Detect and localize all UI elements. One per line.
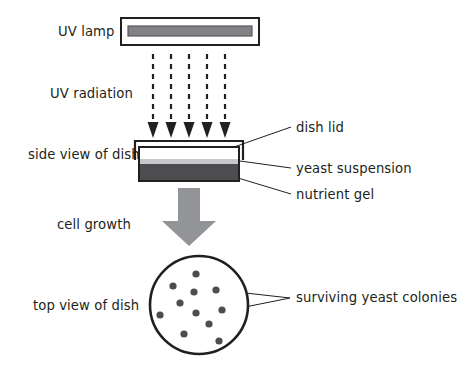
label-uv-lamp: UV lamp (58, 24, 115, 39)
petri-dish-top-view-group (150, 256, 248, 354)
yeast-colony (205, 320, 212, 327)
yeast-colony (156, 311, 163, 318)
label-nutrient-gel: nutrient gel (296, 187, 374, 202)
yeast-colony (190, 288, 197, 295)
uv-ray-arrowhead (166, 122, 177, 138)
label-top-view-of-dish: top view of dish (33, 298, 139, 313)
yeast-colony (215, 337, 222, 344)
uv-radiation-rays-group (148, 54, 231, 138)
nutrient-gel-layer (140, 164, 238, 180)
yeast-colony (176, 299, 183, 306)
label-surviving-yeast-colonies: surviving yeast colonies (296, 290, 457, 305)
label-dish-lid: dish lid (296, 120, 344, 135)
leader-line-dish-lid (234, 127, 291, 147)
uv-ray-arrowhead (184, 122, 195, 138)
text-labels-group: UV lamp UV radiation side view of dish c… (28, 24, 457, 313)
uv-ray-arrowhead (148, 122, 159, 138)
yeast-colony (169, 282, 176, 289)
uv-ray-4 (202, 54, 213, 138)
yeast-colony (192, 270, 199, 277)
yeast-suspension-layer (140, 159, 238, 164)
uv-lamp-group (121, 18, 259, 45)
petri-dish-circle (150, 256, 248, 354)
label-yeast-suspension: yeast suspension (296, 161, 412, 176)
yeast-colony (192, 309, 199, 316)
yeast-colony (180, 330, 187, 337)
diagram-canvas: UV lamp UV radiation side view of dish c… (0, 0, 465, 382)
uv-ray-arrowhead (220, 122, 231, 138)
label-side-view-of-dish: side view of dish (28, 147, 140, 162)
uv-ray-2 (166, 54, 177, 138)
cell-growth-arrow (162, 188, 216, 246)
yeast-colony (218, 306, 225, 313)
uv-ray-1 (148, 54, 159, 138)
uv-ray-5 (220, 54, 231, 138)
uv-lamp-tube (128, 26, 252, 36)
uv-yeast-experiment-diagram: UV lamp UV radiation side view of dish c… (0, 0, 465, 382)
leader-line-yeast-suspension (240, 161, 291, 168)
label-cell-growth: cell growth (57, 217, 131, 232)
label-uv-radiation: UV radiation (50, 86, 133, 101)
yeast-colony (212, 286, 219, 293)
side-view-dish-group (135, 141, 243, 181)
uv-ray-arrowhead (202, 122, 213, 138)
uv-ray-3 (184, 54, 195, 138)
leader-line-nutrient-gel (238, 178, 291, 194)
